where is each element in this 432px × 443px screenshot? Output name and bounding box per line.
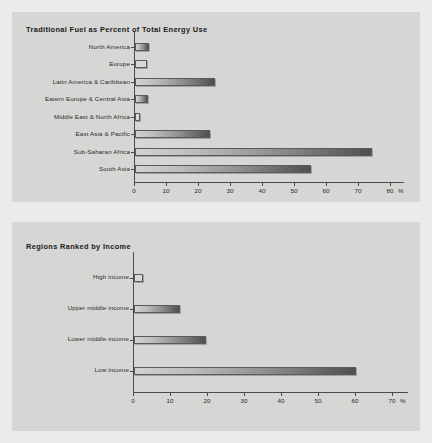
y-axis-tick [131, 152, 135, 153]
x-axis-tick-label: 0 [132, 187, 136, 194]
x-axis-tick [207, 392, 208, 396]
x-axis-tick-label: 70 [388, 397, 395, 404]
chart-panel-traditional-fuel: Traditional Fuel as Percent of Total Ene… [12, 12, 420, 202]
x-axis-tick [166, 182, 167, 186]
bar-row: South Asia [135, 161, 311, 179]
x-axis-tick-label: 60 [351, 397, 358, 404]
bar-category-label: South Asia [99, 166, 130, 172]
bar-row: Sub-Saharan Africa [135, 143, 372, 161]
y-axis-tick [131, 117, 135, 118]
bar [134, 336, 206, 344]
x-axis-tick-label: 40 [258, 187, 265, 194]
x-axis-unit-label: % [398, 187, 404, 194]
x-axis-tick [134, 182, 135, 186]
bar-category-label: Eatern Europe & Central Asia [45, 96, 130, 102]
bar-category-label: Upper middle income [68, 305, 129, 311]
x-axis-tick [281, 392, 282, 396]
y-axis-tick [131, 99, 135, 100]
plot-area-traditional-fuel: North AmericaEuropeLatin America & Carib… [134, 32, 406, 192]
bar-category-label: Lower middle income [68, 336, 129, 342]
x-axis-tick [326, 182, 327, 186]
x-axis-tick [244, 392, 245, 396]
x-axis-tick [355, 392, 356, 396]
bar [135, 130, 210, 138]
y-axis-tick [131, 47, 135, 48]
bar-row: Latin America & Caribbean [135, 73, 215, 91]
x-axis-tick-label: 10 [162, 187, 169, 194]
y-axis-tick [131, 134, 135, 135]
bar [135, 113, 140, 121]
x-axis-tick-label: 10 [166, 397, 173, 404]
bar [135, 60, 147, 68]
x-axis-tick-label: 70 [354, 187, 361, 194]
x-axis-tick [230, 182, 231, 186]
y-axis-tick [130, 278, 134, 279]
x-axis-tick-label: 20 [194, 187, 201, 194]
y-axis-tick [131, 169, 135, 170]
bar-row: High income [134, 262, 143, 293]
bar-row: East Asia & Pacific [135, 126, 210, 144]
x-axis-tick-label: 50 [314, 397, 321, 404]
x-axis-tick-label: 50 [290, 187, 297, 194]
bar-row: Middle East & North Africa [135, 108, 140, 126]
x-axis-tick-label: 0 [131, 397, 135, 404]
x-axis-tick-label: 60 [322, 187, 329, 194]
bar-category-label: Sub-Saharan Africa [74, 149, 130, 155]
x-axis-line [134, 182, 404, 183]
bar-row: North America [135, 38, 149, 56]
y-axis-tick [130, 309, 134, 310]
x-axis-tick [294, 182, 295, 186]
figure-page: Traditional Fuel as Percent of Total Ene… [0, 0, 432, 443]
x-axis-unit-label: % [400, 397, 406, 404]
bar [135, 148, 372, 156]
bar-row: Europe [135, 56, 147, 74]
bar-row: Low income [134, 355, 356, 386]
chart-panel-regions-income: Regions Ranked by Income High incomeUppe… [12, 222, 420, 431]
x-axis-tick [170, 392, 171, 396]
x-axis-tick-label: 20 [203, 397, 210, 404]
bar [134, 305, 180, 313]
x-axis-tick [318, 392, 319, 396]
bar-row: Upper middle income [134, 293, 180, 324]
x-axis-line [133, 392, 408, 393]
x-axis-tick [133, 392, 134, 396]
bar-category-label: Low income [94, 367, 129, 373]
bar-category-label: Middle East & North Africa [54, 114, 130, 120]
bar-category-label: East Asia & Pacific [76, 131, 130, 137]
x-axis-tick [392, 392, 393, 396]
x-axis-tick-label: 80 [386, 187, 393, 194]
bar [135, 95, 148, 103]
y-axis-tick [130, 371, 134, 372]
bar [135, 78, 215, 86]
bar [135, 43, 149, 51]
bar-category-label: Latin America & Caribbean [53, 79, 130, 85]
x-axis-tick [198, 182, 199, 186]
chart-title-regions-income: Regions Ranked by Income [26, 242, 131, 251]
x-axis-tick [358, 182, 359, 186]
plot-area-regions-income: High incomeUpper middle incomeLower midd… [133, 252, 409, 417]
x-axis-tick [262, 182, 263, 186]
x-axis-tick-label: 30 [226, 187, 233, 194]
x-axis-tick-label: 30 [240, 397, 247, 404]
x-axis-tick-label: 40 [277, 397, 284, 404]
bar-row: Eatern Europe & Central Asia [135, 91, 148, 109]
bar-category-label: High income [93, 274, 129, 280]
bar-category-label: North America [89, 44, 130, 50]
bar-row: Lower middle income [134, 324, 206, 355]
x-axis-tick [390, 182, 391, 186]
y-axis-tick [131, 64, 135, 65]
y-axis-tick [131, 82, 135, 83]
y-axis-tick [130, 340, 134, 341]
bar [135, 165, 311, 173]
bar-category-label: Europe [109, 61, 130, 67]
bar [134, 367, 356, 375]
bar [134, 274, 143, 282]
